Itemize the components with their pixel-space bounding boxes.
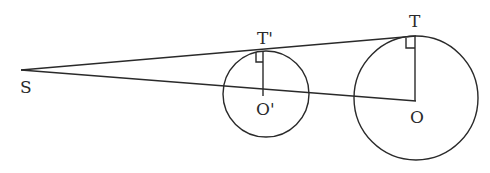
label-O-prime: O': [256, 99, 275, 119]
geometry-diagram: S T' O' T O: [0, 0, 490, 173]
small-circle: [223, 51, 309, 137]
label-S: S: [20, 77, 32, 97]
line-SO: [21, 70, 416, 101]
tangent-line-ST: [21, 36, 416, 70]
label-O: O: [410, 107, 424, 127]
right-angle-mark-T: [406, 38, 415, 48]
right-angle-mark-Tprime: [256, 52, 263, 62]
label-T: T: [409, 11, 421, 31]
label-T-prime: T': [257, 28, 273, 48]
